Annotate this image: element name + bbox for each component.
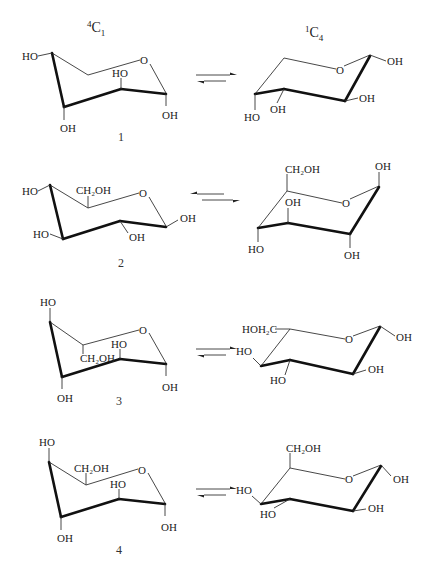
ring-oxygen: O [138, 464, 146, 476]
ring-oxygen: O [336, 64, 344, 76]
label: OH [60, 122, 76, 134]
label: OH [344, 249, 360, 261]
structure-3-1C4: HOH₂C O OH HO OH HO [236, 323, 412, 386]
ring-oxygen: O [139, 324, 147, 336]
label: HOH₂C [242, 323, 277, 335]
label: HO [22, 185, 38, 197]
label: CH₂OH [286, 442, 321, 454]
structure-number-1: 1 [118, 130, 124, 144]
ring-oxygen: O [139, 187, 147, 199]
ring-oxygen: O [342, 197, 350, 209]
label: OH [368, 363, 384, 375]
label: HO [260, 508, 276, 520]
label: OH [57, 392, 73, 404]
label: HO [110, 478, 126, 490]
equilibrium-arrows-4 [196, 487, 237, 498]
label: CH₂OH [76, 184, 111, 196]
structure-3-4C1: HO O HO CH₂OH OH OH [40, 296, 178, 404]
label: HO [22, 50, 38, 62]
structure-1-1C4: O OH OH OH HO [244, 55, 403, 123]
structure-2-1C4: CH₂OH OH O OH HO OH [248, 160, 391, 261]
ring-oxygen: O [140, 54, 148, 66]
label: OH [162, 381, 178, 393]
label: OH [375, 160, 391, 172]
structure-4-4C1: HO CH₂OH O HO OH OH [39, 436, 177, 544]
structure-number-3: 3 [116, 394, 122, 408]
label: OH [359, 92, 375, 104]
label: OH [393, 473, 409, 485]
label: OH [162, 109, 178, 121]
label: OH [161, 521, 177, 533]
ring-oxygen: O [345, 473, 353, 485]
label: HO [244, 111, 260, 123]
equilibrium-arrows-3 [196, 347, 237, 358]
structure-number-4: 4 [116, 543, 122, 557]
ring-oxygen: O [345, 333, 353, 345]
label: HO [236, 345, 252, 357]
label: OH [57, 532, 73, 544]
equilibrium-arrows-2 [190, 192, 240, 203]
label: OH [129, 231, 145, 243]
label: CH₂OH [285, 163, 320, 175]
structure-4-1C4: CH₂OH O OH HO OH HO [236, 442, 409, 520]
label: OH [285, 196, 301, 208]
label: OH [387, 55, 403, 67]
label: HO [39, 436, 55, 448]
structure-2-4C1: HO CH₂OH O OH HO OH [22, 184, 196, 243]
label: HO [248, 243, 264, 255]
label: CH₂OH [80, 352, 115, 364]
label: OH [368, 502, 384, 514]
label: HO [270, 374, 286, 386]
label: HO [40, 296, 56, 308]
structure-number-2: 2 [118, 256, 124, 270]
label: OH [396, 331, 412, 343]
label: OH [180, 212, 196, 224]
structure-1-4C1: HO O HO OH OH [22, 50, 178, 134]
label: OH [270, 103, 286, 115]
equilibrium-arrows-1 [196, 73, 237, 84]
pyranose-conformation-diagram: 4C1 1C4 HO O HO OH OH 1 [0, 0, 431, 569]
label: HO [111, 338, 127, 350]
label: HO [236, 484, 252, 496]
label: HO [33, 228, 49, 240]
header-1C4: 1C4 [305, 24, 324, 43]
label: CH₂OH [74, 462, 109, 474]
header-4C1: 4C1 [87, 19, 105, 38]
label: HO [112, 67, 128, 79]
